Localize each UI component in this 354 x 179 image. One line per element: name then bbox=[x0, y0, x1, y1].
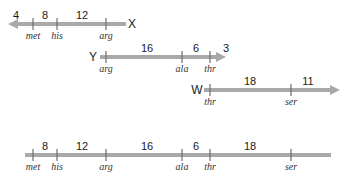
strand-line bbox=[204, 88, 332, 92]
segment-length: 12 bbox=[76, 140, 88, 152]
fragment-label: Y bbox=[89, 50, 97, 64]
residue-label: his bbox=[51, 161, 63, 172]
residue-label: ser bbox=[285, 96, 297, 107]
residue-label: met bbox=[26, 30, 41, 41]
fragment-w: thrser1811W bbox=[191, 75, 340, 107]
segment-length: 6 bbox=[193, 42, 199, 54]
segment-length: 8 bbox=[42, 9, 48, 21]
segment-length: 3 bbox=[223, 42, 229, 54]
fragment-x: methisarg4812X bbox=[8, 9, 136, 41]
fragment-y: argalathr1663Y bbox=[89, 42, 229, 74]
residue-label: arg bbox=[99, 161, 113, 172]
residue-label: his bbox=[51, 30, 63, 41]
residue-label: ala bbox=[176, 63, 189, 74]
combined-map: methisargalathrser81216618 bbox=[25, 140, 331, 172]
segment-length: 18 bbox=[244, 75, 256, 87]
segment-length: 16 bbox=[141, 140, 153, 152]
residue-label: thr bbox=[204, 161, 216, 172]
residue-label: ser bbox=[285, 161, 297, 172]
fragment-label: X bbox=[128, 17, 136, 31]
segment-length: 6 bbox=[193, 140, 199, 152]
strand-line bbox=[100, 55, 218, 59]
segment-length: 4 bbox=[13, 9, 19, 21]
segment-length: 8 bbox=[42, 140, 48, 152]
segment-length: 11 bbox=[302, 75, 313, 87]
residue-label: arg bbox=[99, 63, 113, 74]
segment-length: 16 bbox=[141, 42, 153, 54]
segment-length: 18 bbox=[244, 140, 256, 152]
segment-length: 12 bbox=[76, 9, 88, 21]
fragment-label: W bbox=[191, 83, 203, 97]
residue-label: thr bbox=[204, 96, 216, 107]
residue-label: thr bbox=[204, 63, 216, 74]
residue-label: arg bbox=[99, 30, 113, 41]
peptide-map-diagram: methisarg4812X argalathr1663Y thrser1811… bbox=[0, 0, 354, 179]
strand-line bbox=[25, 153, 331, 157]
residue-label: met bbox=[26, 161, 41, 172]
residue-label: ala bbox=[176, 161, 189, 172]
arrow-right-icon bbox=[330, 85, 340, 95]
